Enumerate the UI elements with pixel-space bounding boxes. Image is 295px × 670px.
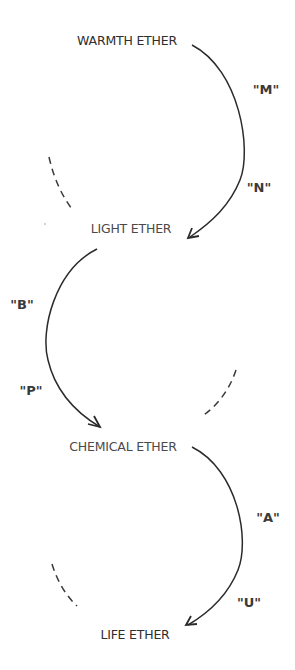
dashed-arc-1	[49, 157, 72, 209]
arrowhead-icon	[88, 416, 100, 427]
dashed-arc-2	[201, 370, 236, 417]
arc-chemical-life-path	[188, 447, 242, 625]
arc-warmth-to-light	[188, 45, 244, 238]
sound-label-m: "M"	[253, 82, 279, 97]
ether-diagram: WARMTH ETHER LIGHT ETHER CHEMICAL ETHER …	[0, 0, 295, 670]
sound-label-b: "B"	[10, 297, 33, 312]
sound-label-p: "P"	[19, 383, 42, 398]
node-life-ether: LIFE ETHER	[100, 627, 170, 642]
arc-light-chemical-path	[46, 249, 100, 427]
dashed-arc-3	[52, 564, 77, 606]
arc-light-to-chemical	[46, 249, 100, 427]
sound-label-a: "A"	[256, 510, 280, 525]
arc-warmth-light-path	[190, 45, 244, 237]
sound-label-u: "U"	[237, 595, 261, 610]
node-chemical-ether: CHEMICAL ETHER	[69, 439, 177, 454]
arc-chemical-to-life	[186, 447, 242, 625]
node-warmth-ether: WARMTH ETHER	[77, 33, 177, 48]
sound-label-n: "N"	[247, 180, 271, 195]
stray-dot	[44, 223, 45, 224]
arrowhead-icon	[188, 228, 199, 238]
node-light-ether: LIGHT ETHER	[91, 221, 172, 236]
